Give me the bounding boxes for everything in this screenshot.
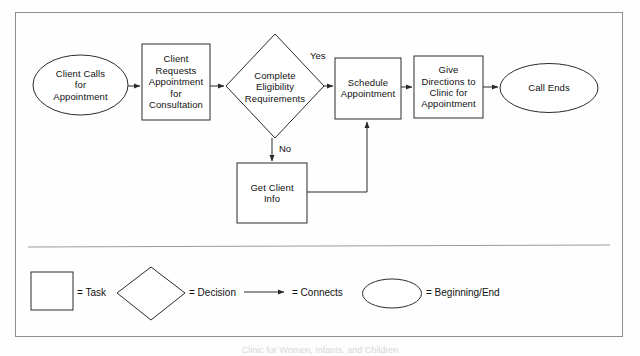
node-shape-client-requests <box>142 44 210 120</box>
node-shape-client-calls <box>33 55 128 115</box>
legend-label-decision: = Decision <box>189 287 236 299</box>
section-divider <box>28 245 610 247</box>
flowchart-page: Client Calls for Appointment Client Requ… <box>0 0 640 356</box>
legend-label-task: = Task <box>77 287 106 299</box>
legend-shape-ellipse <box>363 279 422 308</box>
node-shape-schedule-appointment <box>335 58 401 119</box>
edge-label-yes: Yes <box>310 50 326 61</box>
legend-shape-diamond <box>117 267 185 320</box>
node-shape-get-client-info <box>237 163 307 223</box>
legend-shape-rectangle <box>31 272 73 310</box>
node-shape-call-ends <box>500 64 598 113</box>
edge-label-no: No <box>279 143 291 154</box>
page-caption: Clinic for Women, Infants, and Children <box>0 345 640 356</box>
legend-label-connects: = Connects <box>292 287 343 299</box>
connector-get-client-info-to-schedule <box>307 122 367 192</box>
node-shape-give-directions <box>414 56 483 118</box>
legend-label-beginning-end: = Beginning/End <box>426 287 500 299</box>
